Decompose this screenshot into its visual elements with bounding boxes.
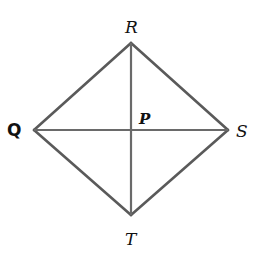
edge-TQ: [34, 130, 131, 215]
vertex-label-R: R: [124, 17, 138, 37]
intersection-label-P: P: [138, 110, 151, 128]
vertex-label-Q: Q: [7, 120, 21, 140]
rhombus-diagram: R Q P S T: [0, 0, 260, 265]
edge-ST: [131, 130, 228, 215]
vertex-label-T: T: [125, 229, 138, 249]
edge-QR: [34, 43, 131, 130]
vertex-label-S: S: [236, 121, 248, 141]
rhombus-diagonals: [34, 43, 228, 215]
